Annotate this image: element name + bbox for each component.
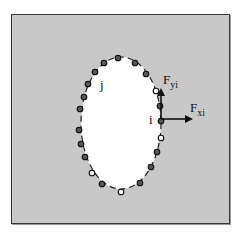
filled-node-icon (132, 60, 138, 66)
filled-node-icon (115, 55, 121, 61)
hole-diagram: j i Fyi Fxi (0, 0, 242, 238)
open-node-icon (153, 88, 159, 94)
filled-node-icon (148, 164, 154, 170)
filled-node-icon (78, 141, 84, 147)
filled-node-icon (157, 103, 163, 109)
force-x-label: Fxi (190, 100, 205, 118)
filled-node-icon (143, 71, 149, 77)
filled-node-icon (99, 181, 105, 187)
node-i-label: i (149, 112, 153, 127)
filled-node-icon (101, 60, 107, 66)
filled-node-icon (82, 154, 88, 160)
filled-node-icon (92, 69, 98, 75)
filled-node-icon (137, 180, 143, 186)
filled-node-icon (76, 127, 82, 133)
node-j-label: j (99, 77, 104, 92)
filled-node-icon (77, 106, 83, 112)
open-node-icon (158, 135, 164, 141)
filled-node-icon (81, 94, 87, 100)
open-node-icon (89, 170, 95, 176)
force-y-label: Fyi (163, 72, 178, 90)
filled-node-icon (85, 81, 91, 87)
filled-node-icon (154, 149, 160, 155)
open-node-icon (118, 189, 124, 195)
